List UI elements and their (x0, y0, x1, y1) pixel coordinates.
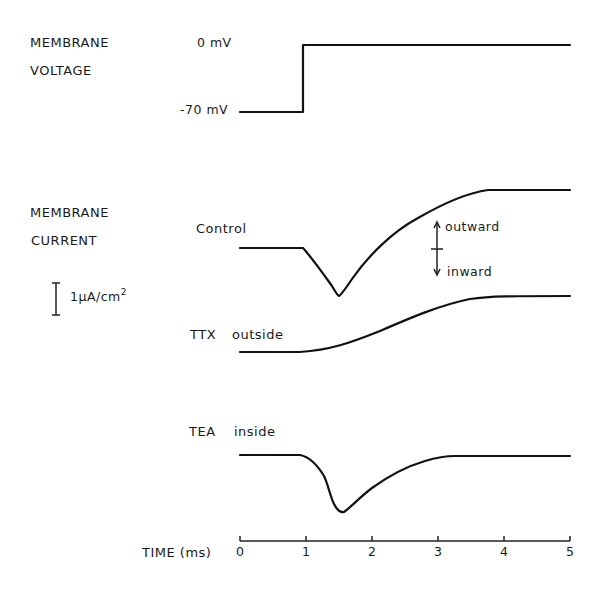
direction-arrow-icon (431, 222, 443, 275)
voltage-step-trace (240, 45, 570, 112)
tea-current-trace (240, 455, 570, 512)
membrane-diagram (0, 0, 605, 597)
scale-bar-icon (52, 283, 60, 315)
time-axis (240, 536, 570, 541)
control-current-trace (240, 190, 570, 296)
ttx-current-trace (240, 296, 570, 352)
